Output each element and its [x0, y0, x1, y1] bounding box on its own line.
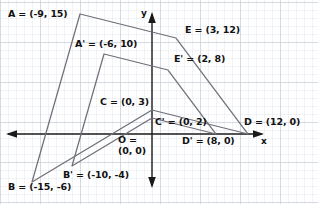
point-label-E: E = (3, 12) [185, 25, 240, 36]
origin-label-line2: (0, 0) [118, 145, 146, 156]
origin-label: O = (0, 0) [118, 134, 146, 156]
x-axis-label: x [261, 136, 267, 146]
point-label-A-prime: A' = (-6, 10) [75, 39, 137, 50]
coordinate-plane [0, 0, 318, 204]
point-label-E-prime: E' = (2, 8) [174, 54, 225, 65]
point-label-D-prime: D' = (8, 0) [182, 136, 235, 147]
point-label-A: A = (-9, 15) [8, 9, 68, 20]
origin-label-line1: O = [118, 134, 146, 145]
point-label-C: C = (0, 3) [100, 97, 149, 108]
point-label-C-prime: C' = (0, 2) [155, 117, 207, 128]
y-axis-label: y [141, 8, 147, 18]
point-label-B: B = (-15, -6) [8, 182, 71, 193]
point-label-B-prime: B' = (-10, -4) [63, 170, 129, 181]
graph-figure: y x A = (-9, 15) A' = (-6, 10) E = (3, 1… [0, 0, 318, 204]
point-label-D: D = (12, 0) [244, 117, 300, 128]
grid-major [0, 0, 318, 204]
